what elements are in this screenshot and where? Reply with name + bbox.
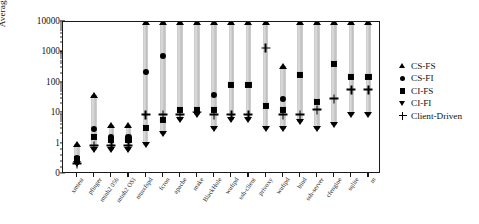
marker-cs-fs	[73, 141, 81, 147]
legend-label: CS-FS	[411, 60, 436, 72]
marker-cs-fs	[262, 22, 270, 25]
x-tick-label: sqlite	[346, 176, 360, 192]
y-tick-label: 1000	[41, 46, 60, 56]
marker-cs-fs	[227, 22, 235, 25]
x-tick-label: make	[191, 176, 205, 192]
x-tick	[299, 173, 300, 177]
x-tick-label: apache	[172, 176, 188, 195]
legend-label: CI-FS	[411, 85, 433, 97]
data-column	[349, 22, 355, 172]
marker-ci-fi	[313, 126, 321, 132]
y-tick-label: 10000	[37, 16, 60, 26]
x-tick	[316, 173, 317, 177]
data-column	[194, 22, 200, 172]
marker-client-driven	[158, 110, 167, 119]
range-band	[263, 22, 269, 129]
marker-cs-fs	[193, 22, 201, 25]
y-tick-label: 10	[51, 107, 60, 117]
marker-cs-fs	[176, 22, 184, 25]
marker-ci-fi	[176, 117, 184, 123]
marker-ci-fs	[245, 82, 251, 88]
data-column	[74, 22, 80, 172]
marker-client-driven	[278, 110, 287, 119]
y-tick-label: 1	[55, 138, 60, 148]
data-column	[314, 22, 320, 172]
x-tick	[367, 173, 368, 177]
data-column	[366, 22, 372, 172]
marker-client-driven	[210, 110, 219, 119]
y-tick-label: 0	[55, 168, 60, 178]
marker-ci-fs	[331, 61, 337, 67]
marker-cs-fs	[107, 122, 115, 128]
marker-cs-fs	[296, 22, 304, 25]
data-column	[331, 22, 337, 172]
x-tick-label: wuftpd	[275, 176, 291, 195]
marker-ci-fi	[193, 112, 201, 118]
y-tick-label: 100	[46, 77, 60, 87]
marker-ci-fi	[124, 147, 132, 153]
range-band	[229, 22, 235, 120]
x-tick-label: fcron	[157, 176, 171, 191]
marker-cs-fs	[210, 22, 218, 25]
x-tick-label: xmtest	[70, 176, 86, 194]
data-column	[177, 22, 183, 172]
x-tick-label: cfengine	[324, 176, 343, 198]
marker-client-driven	[330, 94, 339, 103]
legend-label: CS-FI	[411, 72, 433, 84]
data-column	[297, 22, 303, 172]
marker-ci-fi	[90, 147, 98, 153]
marker-client-driven	[261, 43, 270, 52]
marker-ci-fi	[210, 126, 218, 132]
marker-ci-fs	[297, 72, 303, 78]
marker-ci-fi	[279, 126, 287, 132]
x-tick-label: privoxy	[256, 176, 273, 197]
x-tick	[127, 173, 128, 177]
range-band	[366, 22, 372, 115]
marker-ci-fs	[228, 82, 234, 88]
legend-label: CI-FI	[411, 97, 431, 109]
range-band	[349, 22, 355, 115]
marker-cs-fs	[124, 122, 132, 128]
x-tick-label: wuftpd	[223, 176, 239, 195]
marker-ci-fi	[107, 147, 115, 153]
marker-ci-fs	[91, 134, 97, 140]
marker-ci-fi	[244, 117, 252, 123]
marker-ci-fs	[365, 74, 371, 80]
marker-client-driven	[141, 110, 150, 119]
data-column	[211, 22, 217, 172]
data-column	[143, 22, 149, 172]
marker-cs-fs	[159, 22, 167, 25]
range-band	[246, 22, 252, 120]
data-column	[280, 22, 286, 172]
y-axis: 0110100100010000	[0, 21, 60, 173]
range-band	[177, 22, 183, 120]
marker-client-driven	[313, 105, 322, 114]
chart-root: Average time (s) 0110100100010000 xmtest…	[0, 0, 479, 224]
x-tick-label: bind	[296, 176, 308, 189]
marker-cs-fs	[244, 22, 252, 25]
data-column	[246, 22, 252, 172]
range-band	[194, 22, 200, 115]
marker-cs-fs	[279, 63, 287, 69]
x-tick	[76, 173, 77, 177]
plot-area	[62, 21, 380, 173]
marker-ci-fi	[73, 161, 81, 167]
x-tick	[93, 173, 94, 177]
x-tick	[110, 173, 111, 177]
data-column	[229, 22, 235, 172]
marker-cs-fs	[142, 22, 150, 25]
data-column	[91, 22, 97, 172]
plot-inner	[63, 22, 379, 172]
x-tick	[196, 173, 197, 177]
x-tick-label: pfinger	[86, 176, 103, 195]
marker-cs-fs	[330, 22, 338, 25]
x-tick	[247, 173, 248, 177]
marker-ci-fi	[262, 126, 270, 132]
marker-ci-fi	[159, 131, 167, 137]
x-tick	[145, 173, 146, 177]
x-tick-label: m	[368, 176, 377, 184]
x-tick	[333, 173, 334, 177]
marker-cs-fs	[364, 22, 372, 25]
marker-cs-fs	[90, 92, 98, 98]
data-column	[160, 22, 166, 172]
